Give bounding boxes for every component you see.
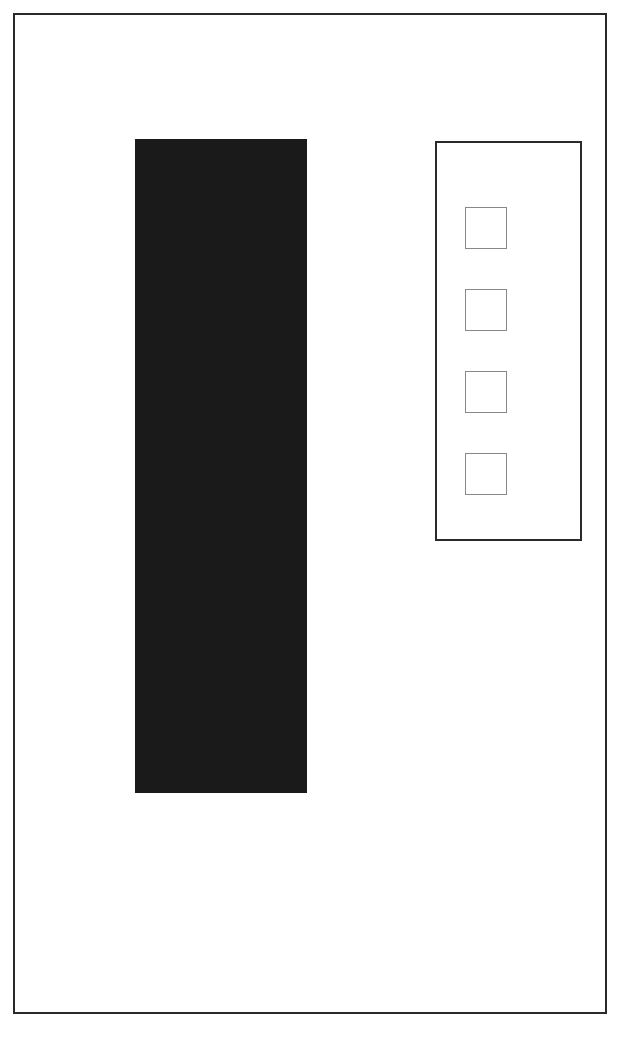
swatch-yellow: [465, 371, 507, 413]
swatch-rust: [465, 453, 507, 495]
swatch-black: [465, 207, 507, 249]
color-key: [435, 141, 582, 541]
swatch-cream: [465, 289, 507, 331]
knitting-chart-grid: [135, 139, 307, 793]
